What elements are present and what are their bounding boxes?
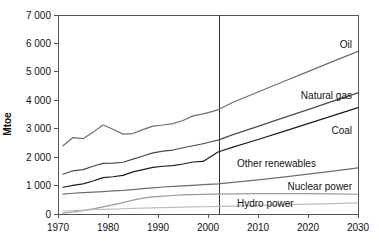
- series-label-other-renewables: Other renewables: [237, 158, 316, 169]
- x-tick-label: 2010: [247, 222, 270, 233]
- y-tick-label: 2 000: [26, 152, 51, 163]
- line-chart: 01 0002 0003 0004 0005 0006 0007 000 197…: [0, 0, 379, 250]
- series-label-coal: Coal: [331, 125, 352, 136]
- y-tick-label: 5 000: [26, 66, 51, 77]
- y-tick-label: 0: [45, 209, 51, 220]
- chart-container: 01 0002 0003 0004 0005 0006 0007 000 197…: [0, 0, 379, 250]
- series-label-natural-gas: Natural gas: [301, 90, 352, 101]
- series-label-nuclear-power: Nuclear power: [288, 181, 353, 192]
- x-tick-label: 1990: [147, 222, 170, 233]
- x-tick-label: 2030: [347, 222, 370, 233]
- x-tick-label: 2020: [297, 222, 320, 233]
- y-tick-label: 1 000: [26, 180, 51, 191]
- series-line-nuclear-power: [63, 194, 358, 214]
- series-line-coal: [63, 108, 358, 188]
- series-label-hydro-power: Hydro power: [237, 198, 294, 209]
- y-tick-label: 4 000: [26, 95, 51, 106]
- y-tick-label: 6 000: [26, 38, 51, 49]
- y-axis-ticks: 01 0002 0003 0004 0005 0006 0007 000: [26, 10, 58, 220]
- series-label-oil: Oil: [340, 39, 352, 50]
- y-tick-label: 7 000: [26, 10, 51, 21]
- x-tick-label: 1970: [47, 222, 70, 233]
- y-tick-label: 3 000: [26, 123, 51, 134]
- x-axis-ticks: 1970198019902000201020202030: [47, 214, 370, 233]
- x-tick-label: 1980: [97, 222, 120, 233]
- y-axis-title: Mtoe: [2, 112, 13, 136]
- series-line-hydro-power: [63, 203, 358, 211]
- series-labels-group: OilNatural gasCoalOther renewablesNuclea…: [237, 39, 353, 209]
- x-tick-label: 2000: [197, 222, 220, 233]
